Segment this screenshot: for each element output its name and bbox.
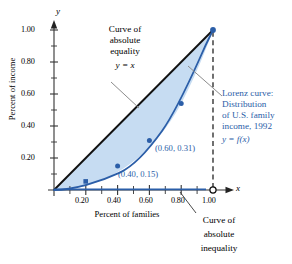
lorenz-annotation-line4: income, 1992 [222,121,292,131]
leader-line-lorenz [188,66,222,96]
x-axis-variable-name: x [236,183,240,193]
inequality-annotation-line3: inequality [176,243,262,253]
data-point-0.60 [147,138,152,143]
y-tick-label-0.80: 0.80 [21,57,35,66]
lorenz-curve-figure: y x 1.00 0.80 0.60 0.40 0.20 0.20 0.40 0… [0,0,292,264]
point-label-060: (0.60, 0.31) [155,144,195,154]
lorenz-equation: y = f(x) [222,134,292,144]
y-axis-title: Percent of income [7,53,17,125]
x-tick-label-0.80: 0.80 [171,196,185,205]
point-label-040: (0.40, 0.15) [118,170,158,180]
lorenz-annotation-line1: Lorenz curve: [222,88,292,98]
equality-equation-text: y = x [116,60,135,70]
data-point-0.40 [115,164,120,169]
equality-equation: y = x [88,60,162,70]
leader-line-equality [111,82,139,108]
x-tick-label-1.00: 1.00 [202,196,216,205]
y-tick-label-0.40: 0.40 [21,121,35,130]
x-axis-title: Percent of families [72,210,182,220]
inequality-annotation-line2: absolute [176,229,262,239]
x-tick-label-0.40: 0.40 [107,196,121,205]
lorenz-annotation-line3: of U.S. family [222,110,292,120]
open-endpoint-marker [210,187,216,193]
data-point-1.00 [210,27,216,33]
lorenz-equation-text: y = f(x) [222,134,250,144]
data-point-0.80 [179,101,184,106]
x-tick-label-0.20: 0.20 [75,196,89,205]
y-tick-label-1.00: 1.00 [21,25,35,34]
data-point-0.20 [83,179,88,184]
inequality-annotation-line1: Curve of [176,215,262,225]
lorenz-annotation-line2: Distribution [222,99,292,109]
x-axis-arrow-icon [226,187,235,193]
equality-annotation-line2: absolute [88,35,162,45]
equality-annotation-line1: Curve of [88,24,162,34]
equality-annotation-line3: equality [88,46,162,56]
y-axis-arrow-icon [51,20,57,29]
y-axis-variable-name: y [56,6,60,16]
y-tick-label-0.60: 0.60 [21,89,35,98]
y-tick-label-0.20: 0.20 [21,153,35,162]
x-tick-label-0.60: 0.60 [139,196,153,205]
